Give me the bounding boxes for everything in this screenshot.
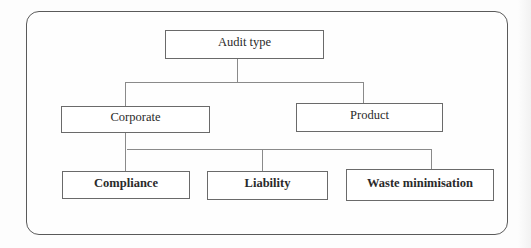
node-label: Corporate xyxy=(111,111,161,124)
node-product: Product xyxy=(296,103,443,132)
connector-to-liability xyxy=(262,149,263,171)
page-edge-shade xyxy=(518,0,531,248)
node-waste-minimisation: Waste minimisation xyxy=(346,169,494,201)
node-compliance: Compliance xyxy=(62,171,190,199)
node-label: Product xyxy=(350,109,389,122)
connector-level1-bar xyxy=(125,82,364,83)
node-label: Audit type xyxy=(218,36,271,49)
connector-corporate-down xyxy=(125,133,126,171)
connector-to-waste-minimisation xyxy=(431,149,432,169)
connector-root-down xyxy=(237,59,238,82)
node-label: Waste minimisation xyxy=(367,177,473,190)
connector-to-corporate xyxy=(125,82,126,107)
node-label: Compliance xyxy=(94,177,158,190)
node-label: Liability xyxy=(245,177,291,190)
connector-to-product xyxy=(363,82,364,103)
node-corporate: Corporate xyxy=(61,106,210,133)
node-audit-type: Audit type xyxy=(165,30,324,59)
connector-level2-bar xyxy=(127,149,432,150)
node-liability: Liability xyxy=(207,171,328,200)
